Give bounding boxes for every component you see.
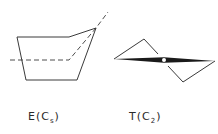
envelope-figure bbox=[10, 12, 108, 80]
twist-lower-wedge bbox=[168, 61, 215, 82]
twist-upper-wedge bbox=[114, 39, 158, 59]
twist-label: T(C2) bbox=[129, 110, 161, 125]
envelope-label: E(Cs) bbox=[28, 110, 60, 125]
twist-figure bbox=[114, 39, 215, 82]
envelope-ring bbox=[17, 28, 96, 80]
c2-axis-point bbox=[162, 58, 166, 62]
